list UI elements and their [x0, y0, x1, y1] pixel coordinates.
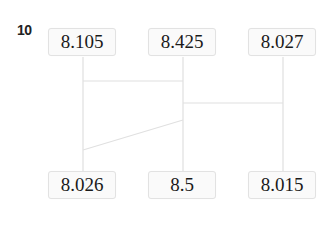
bottom-box-3: 8.015 — [248, 171, 316, 199]
bottom-box-2: 8.5 — [148, 171, 216, 199]
top-box-2: 8.425 — [148, 28, 216, 56]
top-box-1: 8.105 — [48, 28, 116, 56]
bottom-box-1: 8.026 — [48, 171, 116, 199]
top-box-3: 8.027 — [248, 28, 316, 56]
diagonal-rung-1-2 — [83, 120, 183, 150]
